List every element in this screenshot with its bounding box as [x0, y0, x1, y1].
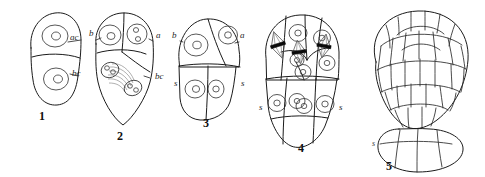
- figure-3-a-nucleus: [219, 26, 238, 44]
- figure-2-number: 2: [117, 129, 123, 143]
- figure-4-suspensor-nucleus-mid-b: [296, 99, 312, 114]
- figure-1-basal-nucleus: [44, 68, 69, 90]
- figure-5-radial-14: [378, 70, 382, 92]
- figure-5-radial-15: [391, 64, 392, 90]
- figure-1-number: 1: [39, 109, 45, 123]
- figure-5-number: 5: [386, 159, 392, 173]
- figure-3-suspensor-right-nucleus: [208, 80, 224, 98]
- figure-3-number: 3: [203, 116, 209, 130]
- figure-2-bc-leader: [144, 76, 150, 78]
- figure-2-a-nucleolus: [133, 28, 138, 33]
- figure-2-anaphase-spindle: [99, 60, 144, 98]
- figure-5-radial-21: [385, 92, 391, 110]
- figure-3-b-nucleus: [184, 34, 208, 56]
- figure-4-label-s-right: s: [339, 102, 343, 112]
- figure-5-radial-1: [386, 25, 390, 48]
- figure-2-wall-apical-vertical: [122, 13, 124, 52]
- figure-5-radial-6: [449, 24, 455, 46]
- figure-3-label-a: a: [240, 30, 245, 40]
- figure-1-division-wall: [32, 54, 80, 58]
- figure-3-group: b a s s 3: [172, 19, 245, 130]
- figure-2-b-nucleolus: [107, 33, 115, 40]
- figure-5-ring-third: [381, 85, 460, 93]
- figure-4-suspensor-wall-right: [313, 78, 316, 143]
- figure-4-nucleus-right-lower: [319, 56, 335, 71]
- embryo-development-figure-plate: ac bc 1: [0, 0, 485, 177]
- figure-5-radial-12: [448, 38, 453, 65]
- figure-4-suspensor-nucleus-right: [316, 96, 334, 113]
- figure-5-suspensor-wall-2: [417, 129, 418, 172]
- figure-3-b-nucleolus: [193, 41, 201, 49]
- figure-5-radial-26: [450, 93, 456, 111]
- figure-4-label-s-left: s: [259, 102, 263, 112]
- figure-4-midline-wall: [266, 76, 339, 79]
- figure-1-basal-nucleolus: [54, 75, 63, 83]
- figure-2-label-b: b: [89, 28, 94, 38]
- figure-5-radial-28: [408, 108, 409, 128]
- figure-3-label-s-left: s: [174, 78, 178, 88]
- figure-4-nucleolus-top-right: [319, 35, 325, 41]
- figure-5-suspensor-wall-1: [395, 130, 400, 168]
- figure-3-label-s-right: s: [241, 78, 245, 88]
- figure-4-nucleus-top-mid: [289, 25, 307, 42]
- figure-5-body-outline: [374, 11, 468, 129]
- figure-5-label-s: s: [372, 139, 375, 148]
- figure-1-apical-nucleolus: [52, 32, 61, 40]
- figure-4-suspensor-nucleus-mid-a: [289, 94, 305, 109]
- figure-3-suspensor-right-nucleolus: [213, 86, 219, 92]
- figure-5-radial-30: [431, 108, 436, 126]
- figure-2-label-a: a: [156, 30, 161, 40]
- figure-3-suspensor-division-wall: [206, 66, 208, 120]
- figure-2-a-nucleolus-second: [135, 37, 140, 42]
- figure-3-suspensor-left-nucleolus: [192, 86, 199, 93]
- figure-5-radial-9: [403, 33, 406, 61]
- figure-3-a-nucleolus: [225, 32, 232, 38]
- figure-4-nucleolus-right-lower: [324, 60, 330, 65]
- figure-3-label-b: b: [172, 30, 177, 40]
- figure-5-radial-19: [451, 64, 452, 89]
- figure-4-suspensor-wall-left: [283, 78, 287, 144]
- figure-plate-canvas: ac bc 1: [0, 0, 485, 177]
- figure-5-radial-22: [397, 86, 399, 108]
- figure-2-b-nucleus: [99, 25, 121, 45]
- figure-4-spindle-middle: [290, 39, 307, 65]
- figure-5-inner-arc-upper: [397, 26, 444, 35]
- figure-2-group: b a bc 2: [89, 13, 164, 143]
- figure-5-suspensor-wall-4: [380, 141, 452, 144]
- figure-5-radial-2: [398, 17, 399, 35]
- figure-4-group: s s 4: [259, 15, 343, 155]
- figure-4-number: 4: [298, 141, 304, 155]
- figure-3-suspensor-left-nucleus: [185, 80, 205, 98]
- figure-5-radial-7: [378, 46, 381, 70]
- figure-1-apical-nucleus: [42, 25, 68, 47]
- figure-5-radial-8: [390, 38, 393, 66]
- figure-4-wall-left-radial: [281, 16, 286, 80]
- figure-4-suspensor-nucleolus-right: [322, 101, 328, 107]
- figure-1-label-bc: bc: [72, 68, 81, 78]
- figure-1-label-ac: ac: [70, 32, 79, 42]
- figure-4-wall-inner-transverse-right: [307, 48, 330, 60]
- figure-4-suspensor-wall-lower: [271, 116, 328, 119]
- figure-5-group: s 5: [372, 11, 468, 173]
- figure-5-radial-25: [440, 86, 443, 108]
- figure-4-suspensor-nucleus-left: [268, 95, 286, 112]
- figure-2-label-bc: bc: [155, 71, 164, 81]
- figure-4-nucleolus-top-mid: [295, 30, 301, 36]
- figure-5-radial-13: [461, 46, 465, 69]
- figure-4-suspensor-nucleolus-left: [274, 100, 280, 106]
- figure-5-suspensor-wall-3: [437, 130, 442, 167]
- figure-1-outline: [31, 13, 81, 105]
- figure-1-group: ac bc 1: [31, 13, 81, 123]
- figure-2-wall-apical-horizontal: [97, 50, 146, 54]
